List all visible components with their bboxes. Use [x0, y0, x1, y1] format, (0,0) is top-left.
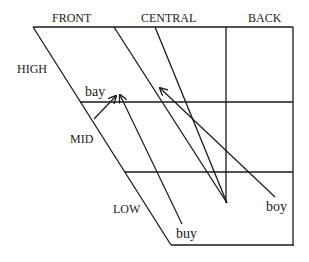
front-border — [33, 27, 171, 245]
diphthong-label-bay: bay — [85, 84, 105, 99]
diphthong-label-boy: boy — [266, 199, 287, 214]
diphthong-arrow-bay — [94, 96, 116, 119]
front-central-divider — [114, 27, 227, 203]
central-inner-divider — [155, 27, 227, 203]
row-label-low: LOW — [113, 202, 141, 216]
row-label-high: HIGH — [17, 62, 47, 76]
column-label-central: CENTRAL — [141, 11, 196, 25]
column-label-back: BACK — [248, 11, 282, 25]
vowel-chart: FRONT CENTRAL BACK HIGH MID LOW bay buy … — [0, 0, 309, 262]
column-label-front: FRONT — [52, 11, 92, 25]
diphthong-label-buy: buy — [176, 226, 197, 241]
row-label-mid: MID — [70, 132, 94, 146]
